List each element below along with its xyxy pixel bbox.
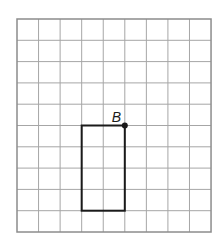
grid-diagram: B bbox=[0, 0, 221, 242]
point-b-dot bbox=[122, 123, 128, 129]
point-b-label: B bbox=[112, 109, 121, 125]
